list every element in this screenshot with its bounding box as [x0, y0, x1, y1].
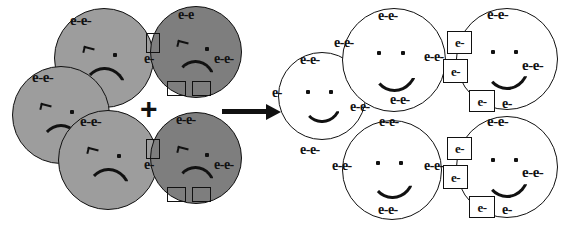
eye-right: [205, 47, 209, 51]
product-upper-middle-label-lower-left: e-e-: [350, 100, 370, 114]
eye-right: [113, 53, 117, 57]
vacant-orbital-box: [146, 139, 160, 159]
filled-orbital-label: e-: [455, 36, 464, 49]
product-upper-right-label-top: e-e-: [487, 7, 508, 22]
product-lower-right-label-right: e-e-: [522, 165, 543, 180]
filled-orbital-label: e-: [477, 201, 486, 214]
acceptor-top-electron-pair-label-top: e-e: [178, 8, 194, 22]
eye-left: [377, 51, 381, 55]
frown-mouth-icon: [175, 60, 216, 83]
vacant-orbital-box: [192, 81, 211, 96]
product-upper-middle-label-top: e-e-: [378, 9, 398, 23]
eye-right: [205, 153, 209, 157]
smile-mouth-icon: [370, 174, 415, 199]
eye-left: [376, 161, 380, 165]
eyebrow-left-icon: [39, 103, 51, 112]
eye-left: [306, 90, 310, 94]
filled-orbital-label: e-: [451, 65, 460, 78]
product-far-left-label-top: e-e-: [300, 53, 320, 67]
filled-orbital-box: e-: [469, 90, 495, 112]
frown-mouth-icon: [86, 168, 131, 193]
eye-right: [401, 51, 405, 55]
donor-top-electron-pair-label: e-e-: [70, 13, 91, 28]
eye-right: [514, 158, 518, 162]
eye-right: [70, 110, 74, 114]
acceptor-bottom-electron-pair-label-right: e-e-: [214, 158, 234, 172]
acceptor-top-electron-label-left: e-: [144, 52, 154, 66]
eye-right: [329, 90, 333, 94]
donor-left-electron-pair-label: e-e-: [32, 70, 53, 85]
eye-left: [491, 158, 495, 162]
eye-right: [399, 161, 403, 165]
product-upper-middle-label-bottom: e-e-: [390, 93, 410, 107]
eyebrow-left-icon: [82, 46, 94, 55]
acceptor-bottom-electron-pair-label-top: e-e-: [176, 113, 196, 127]
product-upper-middle-label-upper-left: e-e-: [334, 36, 354, 50]
filled-orbital-box: e-: [443, 165, 468, 189]
product-lower-middle-label-top: e-e-: [379, 115, 399, 129]
product-lower-middle-label-right: e-e-: [424, 159, 444, 173]
eyebrow-left-icon: [86, 147, 98, 156]
product-lower-right-label-bottom-left: e-: [502, 203, 512, 217]
frown-mouth-icon: [175, 166, 216, 189]
filled-orbital-box: e-: [447, 137, 472, 160]
product-lower-middle-label-left: e-e-: [332, 159, 352, 173]
vacant-orbital-box: [192, 187, 211, 202]
product-upper-right-label-bottom-left: e-: [502, 97, 512, 111]
acceptor-top-electron-pair-label-right: e-e-: [214, 52, 234, 66]
eye-right: [117, 154, 121, 158]
donor-atom-bottom: [58, 110, 158, 210]
acceptor-bottom-electron-label-left: e-: [144, 158, 154, 172]
vacant-orbital-box: [146, 33, 160, 53]
product-far-left-label-left: e-: [272, 86, 282, 100]
eyebrow-left-icon: [176, 146, 188, 155]
eye-left: [491, 50, 495, 54]
reaction-arrow-shaft: [222, 109, 268, 114]
donor-bottom-electron-pair-label: e-e-: [80, 114, 101, 129]
vacant-orbital-box: [167, 187, 186, 202]
eyebrow-left-icon: [176, 40, 188, 49]
product-upper-right-label-right: e-e-: [522, 58, 543, 73]
plus-symbol: +: [140, 94, 158, 124]
vacant-orbital-box: [167, 81, 186, 96]
filled-orbital-label: e-: [455, 142, 464, 155]
product-lower-right-label-top: e-e-: [487, 114, 508, 129]
product-far-left-label-bottom: e-e-: [300, 143, 320, 157]
filled-orbital-label: e-: [477, 95, 486, 108]
filled-orbital-box: e-: [443, 59, 468, 83]
smile-mouth-icon: [302, 101, 342, 123]
filled-orbital-box: e-: [447, 31, 472, 54]
product-lower-middle-label-bottom: e-e-: [378, 203, 398, 217]
smile-mouth-icon: [371, 65, 418, 92]
filled-orbital-label: e-: [451, 171, 460, 184]
product-upper-middle-label-right: e-e-: [424, 50, 444, 64]
filled-orbital-box: e-: [469, 196, 495, 218]
eye-right: [514, 50, 518, 54]
reaction-diagram: e-e- e-e- e-e- + e-e e- e-e- e-e- e- e-e…: [0, 0, 568, 227]
